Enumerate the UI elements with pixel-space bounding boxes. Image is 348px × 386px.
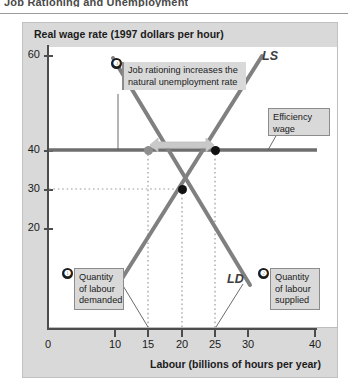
- figure-title: Job Rationing and Unemployment: [4, 0, 188, 7]
- x-tick-label-0: 0: [35, 338, 61, 350]
- callout-1-box: Quantity of labour demanded: [74, 268, 124, 310]
- y-tick-60: [44, 55, 53, 57]
- callout-3-marker: ❸: [111, 58, 122, 69]
- y-tick-label-40: 40: [18, 143, 40, 155]
- callout-2-marker: ❷: [258, 268, 269, 279]
- title-divider: [0, 13, 348, 14]
- x-tick-10: [114, 328, 116, 337]
- callout-2-line3: supplied: [275, 295, 315, 307]
- y-tick-20: [44, 228, 53, 230]
- callout-2-line2: of labour: [275, 284, 315, 296]
- x-tick-label-10: 10: [102, 338, 128, 350]
- callout-3-line1: Job rationing increases the: [128, 65, 242, 77]
- y-tick-40: [44, 150, 53, 152]
- x-tick-30: [247, 328, 249, 337]
- x-tick-25: [214, 328, 216, 337]
- x-tick-label-40: 40: [302, 338, 328, 350]
- y-axis-title: Real wage rate (1997 dollars per hour): [34, 28, 224, 40]
- curve-label-ld: LD: [227, 272, 244, 286]
- x-tick-label-15: 15: [135, 338, 161, 350]
- y-tick-label-60: 60: [18, 48, 40, 60]
- y-tick-30: [44, 189, 53, 191]
- callout-1-line2: of labour: [79, 284, 119, 296]
- callout-1-marker: ❶: [62, 268, 73, 279]
- y-axis-line: [47, 45, 49, 330]
- callout-3-line2: natural unemployment rate: [128, 77, 242, 89]
- x-tick-label-20: 20: [169, 338, 195, 350]
- x-tick-40: [314, 328, 316, 337]
- point-quantity-supplied: [211, 146, 220, 155]
- callout-efficiency-line2: wage: [273, 124, 325, 136]
- callout-efficiency-wage-box: Efficiency wage: [268, 108, 330, 136]
- curve-label-ls: LS: [262, 49, 278, 63]
- x-axis-title: Labour (billions of hours per year): [150, 358, 321, 370]
- callout-efficiency-line1: Efficiency: [273, 112, 325, 124]
- x-tick-label-25: 25: [202, 338, 228, 350]
- point-market-equilibrium: [178, 185, 187, 194]
- y-tick-label-30: 30: [18, 182, 40, 194]
- y-tick-label-20: 20: [18, 221, 40, 233]
- x-tick-label-30: 30: [235, 338, 261, 350]
- x-tick-20: [181, 328, 183, 337]
- callout-2-line1: Quantity: [275, 272, 315, 284]
- point-quantity-demanded: [144, 146, 153, 155]
- callout-2-box: Quantity of labour supplied: [270, 268, 320, 310]
- callout-1-line3: demanded: [79, 295, 119, 307]
- callout-1-line1: Quantity: [79, 272, 119, 284]
- x-tick-15: [147, 328, 149, 337]
- callout-3-box: Job rationing increases the natural unem…: [122, 62, 246, 90]
